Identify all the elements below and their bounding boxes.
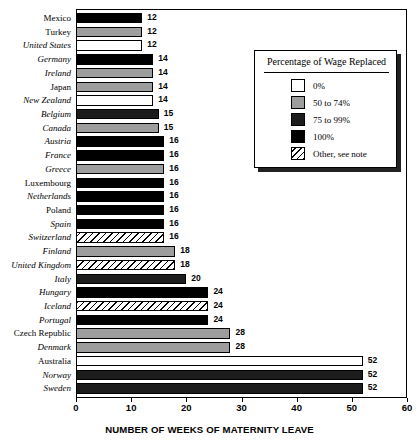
bar-row: 18 (76, 259, 407, 271)
legend-swatch (291, 79, 305, 92)
bar-row: 28 (76, 327, 407, 339)
category-label: Spain (50, 218, 71, 230)
bar-row: 52 (76, 382, 407, 394)
bar-row: 20 (76, 273, 407, 285)
category-label: France (45, 149, 71, 161)
bar-value-label: 16 (169, 148, 178, 160)
bar-row: 16 (76, 231, 407, 243)
bar-row: 16 (76, 190, 407, 202)
legend-swatch (291, 96, 305, 109)
bar (76, 191, 164, 201)
bar-value-label: 28 (235, 326, 244, 338)
category-label: Luxembourg (25, 177, 71, 189)
bar-value-label: 16 (169, 217, 178, 229)
legend-box: Percentage of Wage Replaced 0%50 to 74%7… (254, 50, 397, 168)
bar-value-label: 12 (147, 11, 156, 23)
legend-item-label: 0% (313, 81, 325, 91)
category-label: Greece (45, 163, 71, 175)
bar-value-label: 15 (164, 121, 173, 133)
x-axis-tick-label: 0 (73, 402, 78, 413)
legend-item: 0% (291, 77, 367, 94)
bar (76, 219, 164, 229)
bar-row: 18 (76, 245, 407, 257)
bar-row: 24 (76, 314, 407, 326)
bar-value-label: 52 (368, 368, 377, 380)
bar-value-label: 24 (213, 285, 222, 297)
legend-title-rule (264, 72, 389, 73)
bar (76, 68, 153, 78)
bar (76, 40, 142, 50)
category-label: Turkey (45, 26, 71, 38)
bar-value-label: 52 (368, 381, 377, 393)
x-axis-tick-label: 20 (181, 402, 192, 413)
bar (76, 356, 363, 366)
bar (76, 109, 159, 119)
category-label: Australia (38, 355, 71, 367)
category-label: United Kingdom (11, 259, 71, 271)
bar (76, 123, 159, 133)
bar (76, 301, 208, 311)
bar-value-label: 15 (164, 107, 173, 119)
bar (76, 178, 164, 188)
bar-row: 12 (76, 12, 407, 24)
bar-value-label: 12 (147, 38, 156, 50)
x-axis-tick-label: 50 (347, 402, 358, 413)
bar-value-label: 16 (169, 203, 178, 215)
category-label: Japan (51, 81, 72, 93)
category-label: Czech Republic (14, 327, 71, 339)
legend-swatch (291, 113, 305, 126)
category-label: Denmark (38, 341, 72, 353)
legend-item-label: 75 to 99% (313, 115, 350, 125)
bar-value-label: 24 (213, 313, 222, 325)
bar (76, 287, 208, 297)
category-label: United States (23, 39, 71, 51)
bar (76, 342, 230, 352)
category-label: Mexico (44, 12, 72, 24)
category-label: Portugal (39, 314, 71, 326)
bar (76, 13, 142, 23)
legend-item-label: 100% (313, 132, 334, 142)
bar (76, 328, 230, 338)
category-label: Norway (42, 369, 71, 381)
bar-value-label: 18 (180, 258, 189, 270)
legend-item-label: Other, see note (313, 149, 367, 159)
x-axis-tick-label: 10 (126, 402, 137, 413)
legend-items: 0%50 to 74%75 to 99%100%Other, see note (291, 77, 367, 162)
category-label: Finland (43, 245, 72, 257)
x-axis-tick-label: 40 (291, 402, 302, 413)
bar (76, 136, 164, 146)
bar-row: 16 (76, 177, 407, 189)
bar (76, 246, 175, 256)
bar-value-label: 14 (158, 52, 167, 64)
x-axis: 0102030405060 (76, 398, 407, 416)
bar (76, 260, 175, 270)
bar (76, 150, 164, 160)
bar-value-label: 16 (169, 230, 178, 242)
category-label: Switzerland (28, 231, 71, 243)
bar (76, 383, 363, 393)
bar (76, 315, 208, 325)
category-label: Austria (44, 135, 71, 147)
bar-value-label: 16 (169, 176, 178, 188)
category-label: Belgium (41, 108, 71, 120)
category-label: Poland (46, 204, 71, 216)
maternity-leave-bar-chart: MexicoTurkeyUnited StatesGermanyIrelandJ… (0, 0, 419, 446)
bar-row: 52 (76, 355, 407, 367)
category-label: Sweden (44, 382, 72, 394)
legend-swatch (291, 130, 305, 143)
bar-value-label: 14 (158, 80, 167, 92)
bar (76, 54, 153, 64)
x-axis-title: NUMBER OF WEEKS OF MATERNITY LEAVE (0, 424, 419, 435)
bar-value-label: 28 (235, 340, 244, 352)
bar (76, 232, 164, 242)
bar (76, 205, 164, 215)
bar-row: 16 (76, 204, 407, 216)
bar-value-label: 24 (213, 299, 222, 311)
bar (76, 370, 363, 380)
legend-title: Percentage of Wage Replaced (255, 56, 398, 67)
legend-item: 100% (291, 128, 367, 145)
legend-item: 75 to 99% (291, 111, 367, 128)
bar-row: 24 (76, 300, 407, 312)
legend-swatch (291, 147, 305, 160)
bar (76, 27, 142, 37)
